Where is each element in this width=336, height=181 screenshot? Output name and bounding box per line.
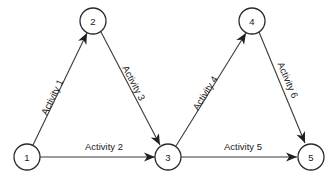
- edge-label-activity-2: Activity 2: [85, 141, 123, 152]
- node-5-label: 5: [308, 152, 313, 163]
- node-5[interactable]: 5: [298, 144, 324, 170]
- node-3-label: 3: [165, 152, 170, 163]
- edge-label-activity-5: Activity 5: [224, 141, 262, 152]
- edge-labels-group: Activity 1 Activity 2 Activity 3 Activit…: [39, 60, 301, 151]
- node-1[interactable]: 1: [14, 144, 40, 170]
- edges-group: [33, 32, 305, 157]
- network-canvas: 1 2 3 4 5 Activity 1 Activity 2 Act: [0, 0, 336, 181]
- node-3[interactable]: 3: [155, 144, 181, 170]
- node-1-label: 1: [24, 152, 29, 163]
- node-2-label: 2: [90, 16, 95, 27]
- node-4[interactable]: 4: [239, 8, 265, 34]
- node-4-label: 4: [249, 16, 254, 27]
- edge-label-activity-4: Activity 4: [190, 74, 219, 112]
- node-2[interactable]: 2: [80, 8, 106, 34]
- edge-activity-3[interactable]: [101, 32, 160, 145]
- edge-label-activity-1: Activity 1: [39, 78, 66, 117]
- activity-network-diagram: 1 2 3 4 5 Activity 1 Activity 2 Act: [0, 0, 336, 181]
- arrowhead-to-node-5-from-node-4: [296, 131, 309, 145]
- edge-label-activity-3: Activity 3: [120, 64, 148, 103]
